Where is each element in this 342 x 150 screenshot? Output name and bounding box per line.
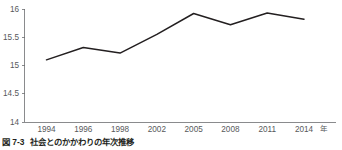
x-tick-label: 1994 bbox=[37, 125, 56, 132]
y-tick-label: 15 bbox=[10, 61, 20, 70]
x-tick-labels: 19941996199820022005200820112014年 bbox=[37, 124, 328, 132]
x-tick-label: 1996 bbox=[74, 125, 93, 132]
y-tick-label: 15.5 bbox=[3, 33, 19, 42]
figure-number: 図 7-3 bbox=[2, 137, 24, 147]
y-tick-label: 16 bbox=[10, 5, 20, 14]
figure-container: 1414.51515.516 1994199619982002200520082… bbox=[0, 0, 342, 150]
x-tick-label: 2014 bbox=[295, 125, 314, 132]
x-tick-label: 2011 bbox=[258, 125, 276, 132]
chart-plot-area: 1414.51515.516 1994199619982002200520082… bbox=[0, 0, 342, 132]
figure-caption-text: 社会とのかかわりの年次推移 bbox=[30, 137, 134, 147]
line-chart-svg: 1414.51515.516 1994199619982002200520082… bbox=[0, 0, 342, 132]
figure-caption: 図 7-3社会とのかかわりの年次推移 bbox=[2, 136, 340, 150]
x-tick-label: 2002 bbox=[148, 125, 167, 132]
y-tick-label: 14 bbox=[10, 118, 20, 127]
y-tick-labels: 1414.51515.516 bbox=[3, 5, 19, 127]
y-tick-label: 14.5 bbox=[3, 89, 19, 98]
data-series-group bbox=[47, 13, 305, 60]
x-tick-label: 1998 bbox=[111, 125, 130, 132]
series-line-0 bbox=[47, 13, 305, 60]
x-tick-label: 2005 bbox=[185, 125, 204, 132]
y-axis bbox=[22, 9, 25, 122]
x-axis-unit-label: 年 bbox=[320, 124, 328, 132]
x-tick-label: 2008 bbox=[221, 125, 240, 132]
